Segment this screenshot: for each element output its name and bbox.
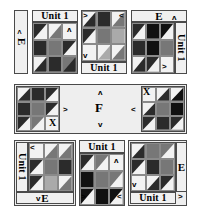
- paw-cell: [97, 44, 112, 61]
- strip-label-unit: Unit 1: [41, 11, 69, 21]
- paw-cell: [62, 40, 77, 57]
- strip-label-unit: Unit 1: [176, 34, 186, 62]
- arrow-down-bot-1: v: [36, 195, 40, 203]
- paw-cell: [82, 28, 97, 45]
- strip-unit-bot-2: Unit 1: [79, 140, 125, 153]
- paw-cell: [95, 188, 110, 205]
- arrow-right-bot-2: >: [81, 193, 86, 201]
- paw-cell: [95, 154, 110, 171]
- strip-e-top-1: E: [14, 10, 28, 74]
- arrow-up-bot-2: ʌ: [114, 157, 118, 165]
- strip-label-unit: Unit 1: [139, 193, 167, 203]
- strip-e-bot-3: E: [176, 142, 187, 192]
- paw-cell: [31, 87, 45, 102]
- strip-unit-top-3: Unit 1: [81, 62, 127, 74]
- paw-cell: [160, 40, 174, 57]
- paw-cell: [45, 102, 59, 117]
- paw-cell: [146, 23, 160, 40]
- paw-cell: [48, 40, 63, 57]
- arrow-down-mid: v: [98, 121, 102, 129]
- paw-cell: [142, 116, 156, 131]
- paw-cell: [170, 116, 184, 131]
- strip-label-e: E: [155, 11, 163, 22]
- arrow-down-top-3: v: [83, 52, 87, 60]
- paw-cell: [156, 102, 170, 117]
- arrow-left-top-3: <: [119, 12, 124, 20]
- paw-cell: [146, 159, 161, 175]
- arrow-up-top-2: ʌ: [67, 26, 71, 34]
- paw-cell: [170, 87, 184, 102]
- arrow-right-top-4: >: [162, 63, 167, 71]
- arrow-right-top-3: >: [83, 12, 88, 20]
- paw-cell: [33, 40, 48, 57]
- paw-cell: [44, 175, 59, 191]
- paw-cell: [146, 56, 160, 73]
- paw-cell: [132, 56, 146, 73]
- strip-label-unit: Unit 1: [88, 142, 116, 152]
- paw-cell: [45, 87, 59, 102]
- paw-cell: [156, 116, 170, 131]
- arrow-up-top-4: ʌ: [172, 14, 176, 22]
- arrow-left-bot-1: <: [30, 144, 35, 152]
- strip-label-e: E: [178, 162, 186, 173]
- paw-cell: [80, 154, 95, 171]
- paw-cell: [160, 143, 175, 159]
- strip-label-unit: Unit 1: [90, 63, 118, 73]
- paw-cell: [29, 175, 44, 191]
- arrow-left-mid: <: [131, 106, 136, 114]
- strip-e-bot-1: E: [16, 192, 74, 204]
- paw-cell: [97, 11, 112, 28]
- arrow-left-top-1: <: [15, 30, 23, 35]
- strip-label-e: E: [41, 193, 49, 204]
- paw-cell: [146, 40, 160, 57]
- paw-cell: [33, 23, 48, 40]
- strip-unit-bot-3: Unit 1: [130, 192, 176, 204]
- paw-cell: [111, 44, 126, 61]
- paw-unit-bot-3: [130, 142, 176, 192]
- paw-cell: [31, 102, 45, 117]
- paw-cell: [80, 171, 95, 188]
- paw-cell: [132, 40, 146, 57]
- strip-label-unit: Unit 1: [17, 153, 27, 181]
- paw-cell: [160, 159, 175, 175]
- paw-cell: [58, 159, 73, 175]
- paw-cell: [17, 87, 31, 102]
- arrow-left-bot-2: <: [117, 193, 122, 201]
- paw-cell: [48, 23, 63, 40]
- paw-cell: [131, 143, 146, 159]
- paw-cell: [95, 171, 110, 188]
- marker-x-mid-right: X: [143, 87, 150, 97]
- paw-cell: [146, 143, 161, 159]
- paw-cell: [48, 56, 63, 73]
- paw-unit-top-4: [131, 22, 175, 74]
- marker-x-mid-left: X: [49, 118, 56, 128]
- paw-cell: [170, 102, 184, 117]
- panel-label-f: F: [95, 101, 103, 114]
- paw-cell: [33, 56, 48, 73]
- quilt-diagram: E < Unit 1 ʌ Unit 1 > < v E ʌ: [0, 0, 197, 215]
- strip-unit-top-2: Unit 1: [32, 10, 78, 22]
- paw-cell: [62, 56, 77, 73]
- paw-cell: [111, 28, 126, 45]
- paw-cell: [160, 23, 174, 40]
- paw-cell: [109, 171, 124, 188]
- paw-cell: [31, 116, 45, 131]
- paw-cell: [142, 102, 156, 117]
- strip-e-top-4: E: [131, 10, 187, 22]
- arrow-down-bot-3: v: [132, 181, 136, 189]
- paw-cell: [17, 116, 31, 131]
- paw-cell: [58, 175, 73, 191]
- strip-label-e: E: [16, 38, 27, 46]
- strip-unit-bot-1: Unit 1: [16, 142, 28, 192]
- paw-cell: [146, 175, 161, 191]
- arrow-right-mid: >: [63, 106, 68, 114]
- arrow-right-bot-3: >: [178, 193, 183, 201]
- paw-cell: [160, 175, 175, 191]
- paw-cell: [132, 23, 146, 40]
- paw-cell: [156, 87, 170, 102]
- paw-cell: [17, 102, 31, 117]
- paw-cell: [44, 159, 59, 175]
- arrow-up-mid: ʌ: [98, 89, 102, 97]
- strip-unit-top-4: Unit 1: [175, 22, 187, 74]
- paw-cell: [97, 28, 112, 45]
